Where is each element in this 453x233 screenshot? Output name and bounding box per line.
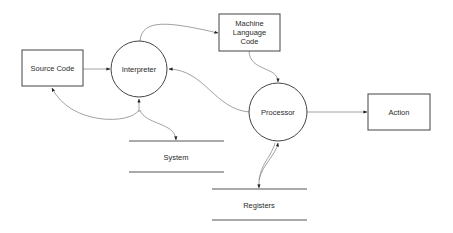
edge-processor-to-registers bbox=[259, 143, 275, 188]
action-label: Action bbox=[389, 108, 410, 117]
edge-machine-code-to-processor bbox=[249, 51, 278, 82]
machine-code-label-line-1: Machine bbox=[235, 19, 263, 28]
machine-code-label-line-2: Language bbox=[233, 28, 266, 37]
edge-processor-to-interpreter bbox=[169, 69, 250, 112]
node-machine-language-code[interactable]: Machine Language Code bbox=[219, 14, 280, 51]
source-code-label: Source Code bbox=[31, 64, 75, 73]
edge-registers-to-processor bbox=[259, 143, 278, 180]
node-processor[interactable]: Processor bbox=[249, 83, 307, 141]
node-registers-store[interactable]: Registers bbox=[212, 189, 307, 220]
node-interpreter[interactable]: Interpreter bbox=[111, 41, 167, 97]
registers-label: Registers bbox=[243, 201, 275, 210]
node-source-code[interactable]: Source Code bbox=[22, 50, 83, 86]
node-system-store[interactable]: System bbox=[129, 141, 224, 172]
machine-code-label-line-3: Code bbox=[241, 37, 259, 46]
data-flow-diagram: Source Code Interpreter Machine Language… bbox=[0, 0, 453, 233]
interpreter-label: Interpreter bbox=[122, 65, 157, 74]
edges bbox=[52, 24, 367, 188]
processor-label: Processor bbox=[261, 108, 295, 117]
edge-interpreter-to-system bbox=[140, 110, 176, 140]
node-action[interactable]: Action bbox=[368, 94, 430, 130]
edge-interpreter-to-machine-code bbox=[140, 24, 218, 41]
system-label: System bbox=[163, 153, 188, 162]
